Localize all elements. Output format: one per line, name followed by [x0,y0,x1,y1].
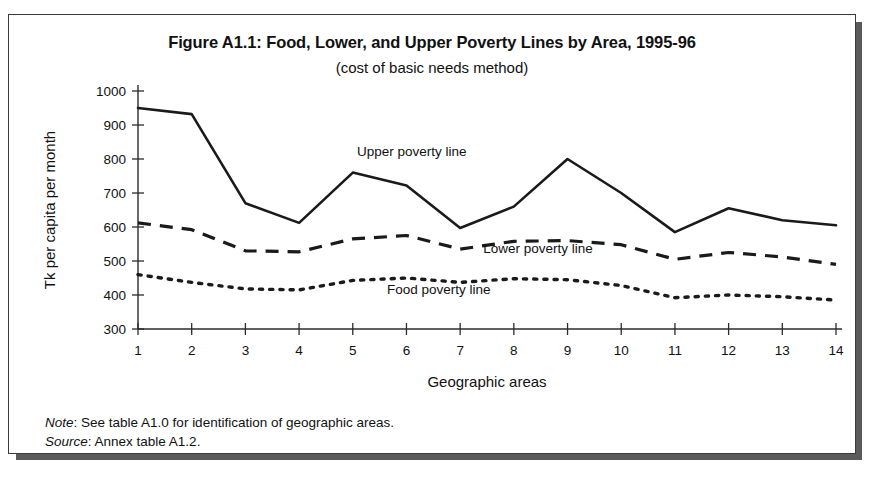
x-tick-label: 10 [614,343,629,358]
source-keyword: Source [45,434,88,449]
series-line-upper [138,108,836,232]
x-axis-ticks: 1234567891011121314 [134,323,844,358]
x-tick-label: 13 [775,343,790,358]
annotation-upper-poverty-line: Upper poverty line [357,144,467,159]
y-tick-label: 900 [103,118,126,133]
x-tick-label: 3 [242,343,250,358]
x-tick-label: 11 [668,343,682,358]
y-tick-label: 400 [103,288,126,303]
x-tick-label: 4 [295,343,303,358]
note-line: Note: See table A1.0 for identification … [45,413,394,432]
x-tick-label: 9 [564,343,572,358]
annotation-lower-poverty-line: Lower poverty line [483,241,593,256]
x-tick-label: 1 [134,343,142,358]
y-tick-label: 800 [103,152,126,167]
x-tick-label: 2 [188,343,196,358]
source-line: Source: Annex table A1.2. [45,432,394,451]
note-text: See table A1.0 for identification of geo… [81,415,394,430]
x-tick-label: 12 [721,343,736,358]
plot-area: 3004005006007008009001000 12345678910111… [9,15,857,455]
y-axis-title: Tk per capita per month [41,131,58,289]
figure-notes: Note: See table A1.0 for identification … [45,413,394,451]
y-tick-label: 300 [103,322,126,337]
annotation-food-poverty-line: Food poverty line [387,282,491,297]
x-tick-label: 8 [510,343,518,358]
source-separator: : [88,434,95,449]
y-tick-label: 1000 [96,84,126,99]
x-tick-label: 6 [403,343,411,358]
x-axis-title: Geographic areas [427,373,546,390]
line-chart-svg: 3004005006007008009001000 12345678910111… [9,15,857,455]
y-tick-label: 500 [103,254,126,269]
note-keyword: Note [45,415,74,430]
x-tick-label: 14 [828,343,844,358]
data-series-group [138,108,836,300]
x-tick-label: 5 [349,343,357,358]
note-separator: : [74,415,82,430]
figure-frame: Figure A1.1: Food, Lower, and Upper Pove… [8,14,856,454]
y-tick-label: 600 [103,220,126,235]
x-tick-label: 7 [456,343,464,358]
source-text: Annex table A1.2. [95,434,201,449]
y-tick-label: 700 [103,186,126,201]
y-axis-ticks: 3004005006007008009001000 [96,84,144,337]
